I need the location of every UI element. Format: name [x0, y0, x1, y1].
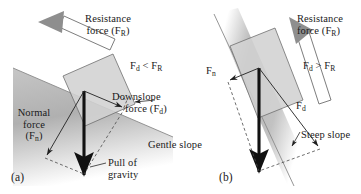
resistance-label-b-line2: force (FR)	[297, 25, 340, 36]
downslope-label-a-line1: Downslope	[112, 91, 161, 102]
normal-force-label-b: Fn	[206, 65, 216, 79]
resistance-label-b-line1: Resistance	[297, 13, 343, 24]
resistance-force-label-b: Resistance force (FR)	[297, 13, 343, 39]
normal-label-a-line2: force	[23, 119, 45, 130]
normal-label-b-subscript: n	[212, 69, 216, 78]
resistance-label-a-line1: Resistance	[85, 13, 131, 24]
comparison-a-operator: < F	[140, 60, 157, 71]
downslope-label-a-prefix: force (F	[125, 103, 159, 114]
downslope-force-label-b: Fd	[296, 100, 306, 114]
normal-label-a-line1: Normal	[18, 107, 51, 118]
normal-label-a-suffix: )	[39, 130, 43, 141]
resistance-force-label-a: Resistance force (FR)	[62, 13, 154, 39]
resistance-label-a-suffix: )	[126, 25, 130, 36]
downslope-label-a-suffix: )	[163, 103, 167, 114]
downslope-force-label-a: Downslope force (Fd)	[112, 91, 167, 117]
force-slope-diagram: Resistance force (FR) Fd < FR Downslope …	[0, 0, 361, 194]
resistance-label-b-suffix: )	[337, 25, 341, 36]
gentle-slope-label: Gentle slope	[148, 139, 202, 151]
resistance-label-b-prefix: force (F	[297, 25, 331, 36]
panel-caption-b: (b)	[219, 172, 233, 184]
gravity-label-a: Pull of gravity	[108, 157, 138, 180]
downslope-label-b-subscript: d	[302, 104, 306, 113]
gravity-label-a-line1: Pull of	[108, 157, 137, 168]
block-b	[230, 28, 303, 118]
resistance-label-a-prefix: force (F	[86, 25, 120, 36]
comparison-b-operator: > F	[313, 60, 330, 71]
force-comparison-a: Fd < FR	[130, 60, 162, 74]
panel-caption-a: (a)	[11, 172, 24, 184]
steep-slope-label: Steep slope	[301, 129, 350, 141]
force-comparison-b: Fd > FR	[303, 60, 335, 74]
resistance-label-a-line2: force (FR)	[86, 25, 129, 36]
comparison-a-fr-sub: R	[157, 64, 162, 73]
normal-label-a-line3: (Fn)	[25, 130, 42, 141]
normal-force-label-a: Normal force (Fn)	[3, 107, 65, 144]
downslope-label-a-line2: force (Fd)	[112, 103, 167, 117]
normal-label-a-prefix: (F	[25, 130, 35, 141]
gravity-label-a-line2: gravity	[108, 169, 138, 180]
comparison-b-fr-sub: R	[330, 64, 335, 73]
